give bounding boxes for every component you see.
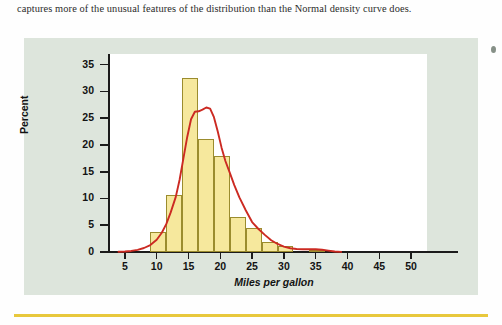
y-tick-label: 30 bbox=[48, 84, 94, 96]
histogram-chart: 05101520253035 5101520253035404550 Perce… bbox=[24, 38, 478, 295]
y-tick-label: 5 bbox=[48, 218, 94, 230]
x-tick-label: 40 bbox=[333, 260, 363, 272]
x-tick bbox=[315, 252, 317, 259]
y-axis-title: Percent bbox=[18, 95, 30, 134]
y-tick-label: 20 bbox=[48, 138, 94, 150]
y-tick-label: 35 bbox=[48, 58, 94, 70]
x-axis-title: Miles per gallon bbox=[174, 276, 374, 288]
y-tick bbox=[100, 144, 108, 146]
density-curve-line bbox=[119, 108, 342, 252]
x-tick bbox=[410, 252, 412, 259]
y-tick-label: 10 bbox=[48, 191, 94, 203]
y-tick bbox=[100, 198, 108, 200]
x-tick-label: 10 bbox=[142, 260, 172, 272]
x-tick-label: 30 bbox=[269, 260, 299, 272]
x-tick-label: 15 bbox=[174, 260, 204, 272]
x-tick-label: 25 bbox=[237, 260, 267, 272]
x-tick bbox=[188, 252, 190, 259]
paragraph-text: captures more of the unusual features of… bbox=[17, 2, 487, 16]
density-curve bbox=[109, 54, 427, 252]
x-tick bbox=[156, 252, 158, 259]
y-tick-label: 25 bbox=[48, 111, 94, 123]
y-tick bbox=[100, 64, 108, 66]
y-tick bbox=[100, 91, 108, 93]
x-tick bbox=[379, 252, 381, 259]
x-tick-label: 35 bbox=[301, 260, 331, 272]
y-tick bbox=[100, 117, 108, 119]
x-tick bbox=[283, 252, 285, 259]
footer-rule bbox=[14, 314, 488, 317]
figure-panel: 05101520253035 5101520253035404550 Perce… bbox=[24, 38, 478, 295]
y-tick bbox=[100, 224, 108, 226]
x-tick bbox=[220, 252, 222, 259]
y-tick-label: 0 bbox=[48, 245, 94, 257]
x-tick-label: 50 bbox=[396, 260, 426, 272]
x-tick-label: 5 bbox=[110, 260, 140, 272]
x-tick bbox=[251, 252, 253, 259]
x-tick-label: 20 bbox=[205, 260, 235, 272]
x-tick bbox=[124, 252, 126, 259]
textbook-page: captures more of the unusual features of… bbox=[0, 0, 502, 325]
y-tick bbox=[100, 171, 108, 173]
y-tick bbox=[100, 251, 108, 253]
y-tick-label: 15 bbox=[48, 165, 94, 177]
x-tick-label: 45 bbox=[364, 260, 394, 272]
scan-artifact bbox=[491, 46, 496, 53]
x-tick bbox=[347, 252, 349, 259]
